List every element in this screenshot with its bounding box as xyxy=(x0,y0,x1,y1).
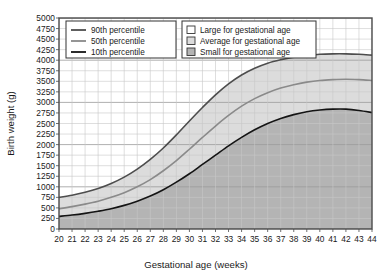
legend-size-categories[interactable]: Large for gestational ageAverage for ges… xyxy=(182,21,316,58)
x-tick-label: 39 xyxy=(302,234,312,244)
x-tick-label: 38 xyxy=(289,234,299,244)
legend-band-swatch xyxy=(187,37,195,45)
legend-band-label: Average for gestational age xyxy=(200,37,300,46)
legend-band-swatch xyxy=(187,48,195,56)
x-tick-label: 29 xyxy=(172,234,182,244)
legend-band-label: Large for gestational age xyxy=(200,26,291,35)
y-tick-label: 250 xyxy=(41,213,55,223)
x-tick-label: 28 xyxy=(159,234,169,244)
x-tick-label: 25 xyxy=(120,234,130,244)
y-tick-label: 500 xyxy=(41,203,55,213)
legend-line-label: 50th percentile xyxy=(91,37,145,46)
x-tick-label: 40 xyxy=(315,234,325,244)
x-axis-title: Gestational age (weeks) xyxy=(144,259,247,270)
y-tick-label: 2500 xyxy=(36,119,55,129)
y-tick-label: 750 xyxy=(41,192,55,202)
y-tick-label: 4250 xyxy=(36,45,55,55)
x-tick-label: 31 xyxy=(198,234,208,244)
x-tick-label: 41 xyxy=(328,234,338,244)
x-axis-ticks: 2021222324252627282930313233343536373839… xyxy=(54,229,377,244)
y-tick-label: 1000 xyxy=(36,182,55,192)
y-tick-label: 2000 xyxy=(36,140,55,150)
legend-band-label: Small for gestational age xyxy=(200,48,291,57)
x-tick-label: 20 xyxy=(54,234,64,244)
legend-line-label: 10th percentile xyxy=(91,48,145,57)
x-tick-label: 27 xyxy=(146,234,156,244)
legend-percentile-lines[interactable]: 90th percentile50th percentile10th perce… xyxy=(66,21,176,58)
y-tick-label: 3750 xyxy=(36,66,55,76)
x-tick-label: 34 xyxy=(237,234,247,244)
birth-weight-percentile-chart: 0250500750100012501500175020002250250027… xyxy=(0,0,391,273)
y-axis-ticks: 0250500750100012501500175020002250250027… xyxy=(36,13,59,234)
x-tick-label: 42 xyxy=(341,234,351,244)
x-tick-label: 24 xyxy=(107,234,117,244)
chart-canvas: 0250500750100012501500175020002250250027… xyxy=(0,0,391,273)
y-tick-label: 4500 xyxy=(36,34,55,44)
x-tick-label: 22 xyxy=(80,234,90,244)
y-tick-label: 1250 xyxy=(36,171,55,181)
x-tick-label: 36 xyxy=(263,234,273,244)
legend-line-label: 90th percentile xyxy=(91,26,145,35)
y-tick-label: 5000 xyxy=(36,13,55,23)
y-tick-label: 3000 xyxy=(36,97,55,107)
x-tick-label: 44 xyxy=(367,234,377,244)
x-tick-label: 37 xyxy=(276,234,286,244)
y-tick-label: 4000 xyxy=(36,55,55,65)
x-tick-label: 32 xyxy=(211,234,221,244)
x-tick-label: 43 xyxy=(354,234,364,244)
y-tick-label: 4750 xyxy=(36,24,55,34)
y-tick-label: 1500 xyxy=(36,161,55,171)
x-tick-label: 21 xyxy=(67,234,77,244)
y-tick-label: 3500 xyxy=(36,76,55,86)
x-tick-label: 33 xyxy=(224,234,234,244)
x-tick-label: 26 xyxy=(133,234,143,244)
legend-band-swatch xyxy=(187,26,195,34)
y-tick-label: 3250 xyxy=(36,87,55,97)
y-tick-label: 2750 xyxy=(36,108,55,118)
x-tick-label: 35 xyxy=(250,234,260,244)
y-tick-label: 1750 xyxy=(36,150,55,160)
y-tick-label: 2250 xyxy=(36,129,55,139)
y-tick-label: 0 xyxy=(50,224,55,234)
y-axis-title: Birth weight (g) xyxy=(5,91,16,156)
x-tick-label: 23 xyxy=(93,234,103,244)
x-tick-label: 30 xyxy=(185,234,195,244)
